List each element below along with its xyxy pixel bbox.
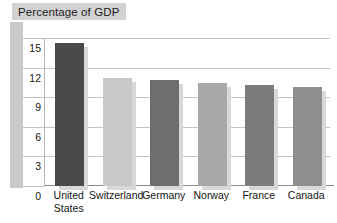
bar [198,83,227,186]
x-axis-tick-labels: United StatesSwitzerlandGermanyNorwayFra… [45,189,337,221]
y-tick-label: 9 [24,101,41,113]
y-tick-label: 6 [24,131,41,143]
bar-body [55,43,84,186]
bar-body [198,83,227,186]
plot-area [45,38,330,186]
chart-figure: Percentage of GDP 03691215 United States… [0,0,337,223]
left-gray-band [10,22,23,188]
y-tick-label: 15 [24,42,41,54]
x-tick-label: Canada [277,189,337,202]
bar [293,87,322,186]
y-tick-rule [23,156,45,157]
bar [103,78,132,186]
bar-body [150,80,179,186]
y-tick-label: 12 [24,72,41,84]
y-tick-rule [23,186,45,187]
y-tick-rule [23,127,45,128]
bar-body [245,85,274,186]
y-tick-rule [23,97,45,98]
y-tick-rule [23,38,45,39]
y-tick-label: 3 [24,160,41,172]
y-tick-rule [23,68,45,69]
bar [245,85,274,186]
bar-series [45,38,330,186]
bar [55,43,84,186]
bar [150,80,179,186]
bar-body [293,87,322,186]
bar-body [103,78,132,186]
chart-title: Percentage of GDP [12,3,126,20]
